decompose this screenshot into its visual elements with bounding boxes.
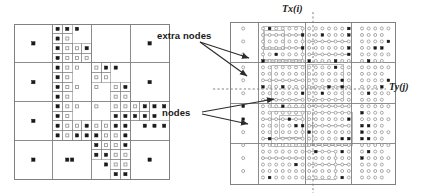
arrow-extra-nodes-2 — [200, 42, 247, 76]
arrow-nodes-2 — [202, 114, 248, 124]
arrow-extra-nodes-1 — [200, 42, 249, 58]
left-grid-lines — [14, 24, 169, 179]
figure-container: extra nodes nodes Tx(i) Ty(j) — [0, 0, 425, 195]
extra-nodes-label: extra nodes — [157, 30, 211, 41]
ty-axis-label: Ty(j) — [389, 81, 409, 92]
diagram-svg — [0, 0, 425, 195]
nodes-label: nodes — [162, 107, 190, 118]
guide-lines — [213, 12, 386, 193]
tx-axis-label: Tx(i) — [282, 3, 303, 14]
